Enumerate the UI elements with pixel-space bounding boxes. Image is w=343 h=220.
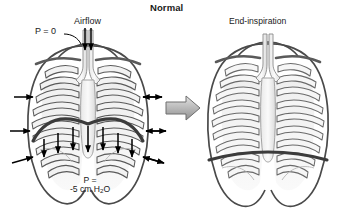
airway-pressure-label: P = 0 [35, 27, 56, 36]
pleural-pressure-line2: -5 cm H2O [70, 185, 110, 195]
pleural-pressure-value: -5 cm H [70, 184, 100, 194]
pleural-pressure-unit-suffix: O [104, 184, 111, 194]
transition-arrow [166, 96, 200, 120]
panel-right-caption: End-inspiration [229, 17, 286, 26]
respiratory-mechanics-figure: Normal End-inspiration P = 0 Airflow P =… [0, 0, 343, 220]
p-zero-leader-line [64, 34, 81, 44]
panel-right-thorax [208, 34, 328, 206]
figure-title: Normal [150, 3, 183, 13]
sternum-mediastinum-right-panel [261, 78, 276, 162]
pleural-pressure-label: P = -5 cm H2O [70, 176, 110, 195]
airflow-label: Airflow [74, 17, 101, 26]
